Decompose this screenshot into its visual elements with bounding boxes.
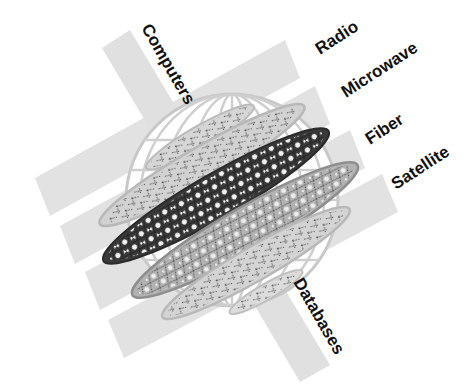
label-satellite: Satellite (388, 142, 453, 193)
network-globe-diagram: Radio Microwave Fiber Satellite Computer… (0, 0, 475, 389)
label-microwave: Microwave (338, 38, 421, 101)
label-fiber: Fiber (362, 110, 408, 149)
label-radio: Radio (312, 17, 362, 59)
